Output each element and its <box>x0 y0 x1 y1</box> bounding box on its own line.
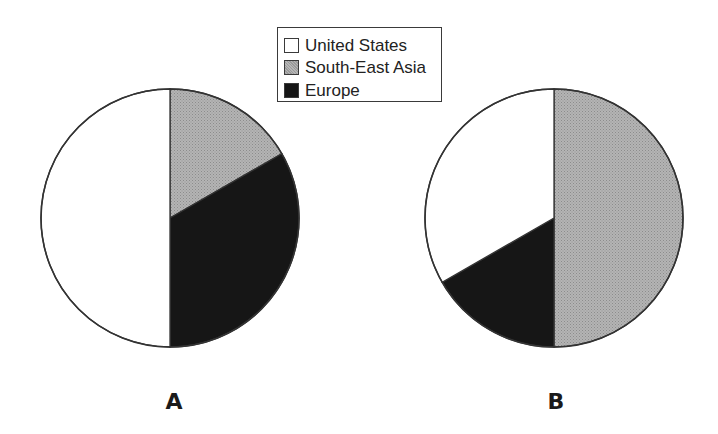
south-east-asia-swatch-icon <box>284 60 299 75</box>
legend: United States South-East Asia Europe <box>277 27 442 102</box>
slice-united-states <box>41 89 170 347</box>
slice-south-east-asia <box>554 89 683 347</box>
pie-a-label: A <box>154 389 194 414</box>
legend-label: United States <box>305 37 407 54</box>
legend-item-south-east-asia: South-East Asia <box>278 57 441 80</box>
united-states-swatch-icon <box>284 38 299 53</box>
legend-item-united-states: United States <box>278 34 441 57</box>
pie-chart-a <box>41 89 299 347</box>
legend-label: South-East Asia <box>305 59 426 76</box>
pie-chart-b <box>425 89 683 347</box>
pie-b-label: B <box>536 389 576 414</box>
legend-item-europe: Europe <box>278 79 441 102</box>
legend-label: Europe <box>305 82 360 99</box>
europe-swatch-icon <box>284 83 299 98</box>
